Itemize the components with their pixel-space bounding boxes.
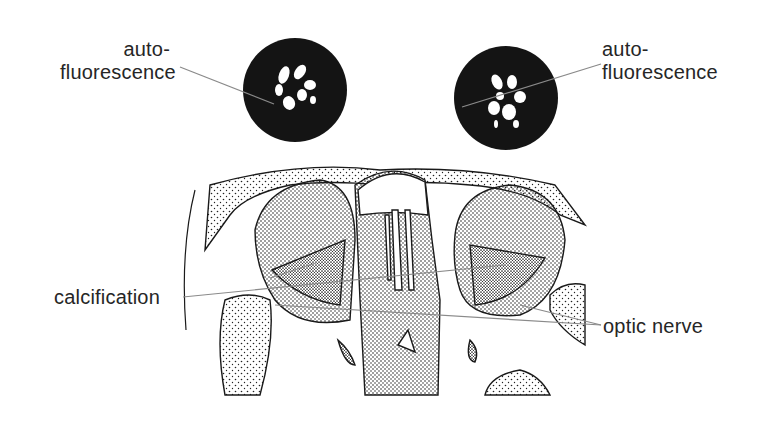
orbit-section: [184, 167, 585, 395]
label-line-2: fluorescence: [602, 61, 752, 84]
label-line-2: fluorescence: [60, 61, 170, 84]
left-nerve-cross-section: [243, 38, 347, 142]
label-autofluorescence-right: auto- fluorescence: [602, 38, 752, 84]
label-calcification: calcification: [20, 286, 160, 309]
right-nerve-cross-section: [454, 46, 558, 150]
label-optic-nerve: optic nerve: [603, 315, 753, 338]
label-line-1: auto-: [602, 38, 752, 61]
label-line-1: auto-: [60, 38, 170, 61]
label-autofluorescence-left: auto- fluorescence: [60, 38, 170, 84]
